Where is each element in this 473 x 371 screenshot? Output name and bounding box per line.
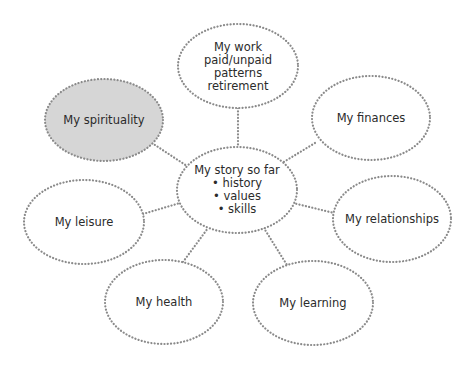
label-leisure: My leisure bbox=[24, 180, 144, 264]
connector-leisure bbox=[143, 203, 180, 214]
work-line-4: retirement bbox=[208, 80, 269, 93]
label-relationships: My relationships bbox=[333, 176, 451, 262]
label-health: My health bbox=[105, 260, 223, 344]
label-finances: My finances bbox=[312, 76, 430, 160]
health-text: My health bbox=[136, 296, 193, 309]
label-learning: My learning bbox=[253, 261, 373, 345]
label-work: My work paid/unpaid patterns retirement bbox=[178, 26, 298, 108]
center-bullet-skills: • skills bbox=[218, 203, 257, 216]
finances-text: My finances bbox=[337, 112, 406, 125]
relationships-text: My relationships bbox=[345, 213, 439, 226]
learning-text: My learning bbox=[279, 297, 346, 310]
label-center: My story so far • history • values • ski… bbox=[177, 148, 297, 232]
connector-health bbox=[183, 228, 208, 262]
leisure-text: My leisure bbox=[55, 216, 114, 229]
spirituality-text: My spirituality bbox=[63, 114, 144, 127]
label-spirituality: My spirituality bbox=[45, 79, 163, 161]
connector-relationships bbox=[293, 203, 334, 213]
